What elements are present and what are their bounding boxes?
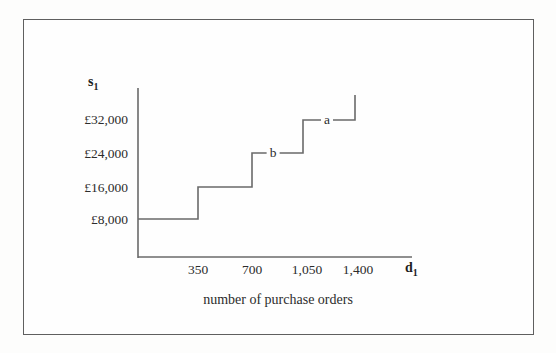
y-tick-label-32000: £32,000 [8,112,128,128]
x-tick-label-700: 700 [242,262,262,278]
step-chart: £32,000 £24,000 £16,000 £8,000 s1 350 70… [0,0,556,353]
chart-caption: number of purchase orders [203,292,353,308]
x-axis-title: d1 [405,260,418,278]
x-tick-label-350: 350 [188,262,208,278]
x-tick-label-1050: 1,050 [292,262,322,278]
y-axis-title: s1 [88,74,98,92]
x-axis-title-sub: 1 [413,267,418,278]
annotation-b: b [267,146,280,160]
x-axis-title-text: d [405,260,413,275]
y-tick-label-16000: £16,000 [8,180,128,196]
x-tick-label-1400: 1,400 [343,262,373,278]
y-axis-title-sub: 1 [93,81,98,92]
annotation-a: a [321,113,333,127]
screenshot-root: £32,000 £24,000 £16,000 £8,000 s1 350 70… [0,0,556,353]
y-tick-label-8000: £8,000 [8,212,128,228]
y-tick-label-24000: £24,000 [8,146,128,162]
